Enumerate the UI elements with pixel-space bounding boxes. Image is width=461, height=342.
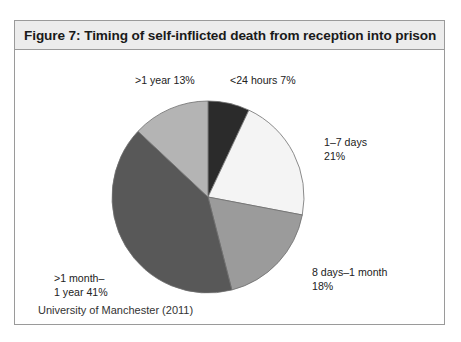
pie-label-8-days-to-1-month: 8 days–1 month 18% <box>312 266 387 293</box>
pie-label-under-24-hours: <24 hours 7% <box>230 74 296 88</box>
figure-title: Figure 7: Timing of self-inflicted death… <box>15 28 436 43</box>
figure-frame: Figure 7: Timing of self-inflicted death… <box>14 20 445 325</box>
pie-label-1-to-7-days: 1–7 days 21% <box>324 136 367 163</box>
pie-label-over-1-year: >1 year 13% <box>135 74 195 88</box>
source-caption: University of Manchester (2011) <box>38 304 193 316</box>
figure-title-bar: Figure 7: Timing of self-inflicted death… <box>15 21 444 50</box>
pie-slice-group <box>112 101 304 293</box>
pie-chart: <24 hours 7% 1–7 days 21% 8 days–1 month… <box>15 50 444 326</box>
pie-label-1-month-to-1-year: >1 month– 1 year 41% <box>54 272 108 299</box>
